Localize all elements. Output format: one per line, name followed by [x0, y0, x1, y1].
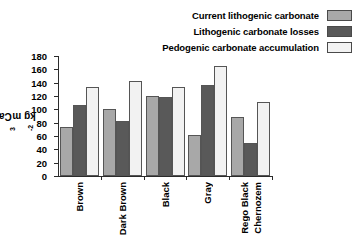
y-axis-tick: 120	[54, 96, 58, 97]
y-axis-tick-label: 20	[36, 157, 47, 168]
x-axis-category-label-line: Dark Brown	[117, 182, 128, 235]
y-axis-tick-label: 140	[31, 77, 47, 88]
y-axis-tick: 180	[54, 56, 58, 57]
bar	[231, 117, 244, 176]
y-axis-tick: 80	[54, 123, 58, 124]
bar-chart-figure: Current lithogenic carbonate Lithogenic …	[0, 0, 356, 252]
bar	[116, 121, 129, 176]
bar	[201, 85, 214, 176]
bar	[86, 87, 99, 176]
legend-item: Pedogenic carbonate accumulation	[138, 40, 352, 55]
chart-legend: Current lithogenic carbonate Lithogenic …	[138, 8, 352, 56]
bar	[214, 66, 227, 176]
legend-swatch-pedogenic-carbonate-accumulation	[327, 42, 352, 53]
x-axis-tick	[229, 176, 230, 180]
bar	[103, 109, 116, 176]
y-axis-tick: 100	[54, 109, 58, 110]
bar	[159, 97, 172, 176]
y-axis-tick-label: 60	[36, 131, 47, 142]
y-axis-title: Ca Co3 kg m-2	[6, 58, 24, 176]
y-axis-tick-label: 100	[31, 104, 47, 115]
bar-group	[231, 56, 270, 176]
y-axis-line	[58, 56, 59, 176]
bar	[257, 102, 270, 176]
legend-label: Pedogenic carbonate accumulation	[162, 42, 319, 53]
legend-label: Current lithogenic carbonate	[192, 10, 319, 21]
y-axis-tick-label: 120	[31, 91, 47, 102]
x-axis-category-label-line: Brown	[74, 182, 85, 212]
y-axis-tick-label: 80	[36, 117, 47, 128]
legend-item: Lithogenic carbonate losses	[138, 24, 352, 39]
x-axis-category-label: Dark Brown	[100, 182, 144, 235]
y-axis-tick: 60	[54, 136, 58, 137]
legend-swatch-current-lithogenic-carbonate	[327, 10, 352, 21]
bar	[244, 143, 257, 176]
bar-group	[103, 56, 142, 176]
bar-group	[188, 56, 227, 176]
x-axis-category-label: Gray	[186, 182, 230, 204]
x-axis-category-label: Black	[143, 182, 187, 207]
x-axis-category-label-line: Black	[160, 182, 171, 207]
legend-item: Current lithogenic carbonate	[138, 8, 352, 23]
y-axis-tick: 140	[54, 83, 58, 84]
bar	[73, 105, 86, 176]
x-axis-category-label-line: Rego Black	[239, 182, 250, 234]
legend-label: Lithogenic carbonate losses	[193, 26, 319, 37]
y-axis-tick: 40	[54, 149, 58, 150]
x-axis-category-label: Brown	[57, 182, 101, 212]
x-axis-category-label-line: Chernozem	[252, 182, 263, 234]
bar	[60, 127, 73, 176]
plot-area: 020406080100120140160180	[58, 56, 272, 176]
y-axis-tick-label: 160	[31, 64, 47, 75]
y-axis-tick: 160	[54, 69, 58, 70]
bar-group	[146, 56, 185, 176]
y-axis-tick-label: 0	[42, 171, 47, 182]
bar	[146, 96, 159, 176]
legend-swatch-lithogenic-carbonate-losses	[327, 26, 352, 37]
x-axis-tick	[272, 176, 273, 180]
x-axis-line	[58, 176, 272, 177]
y-axis-tick-label: 40	[36, 144, 47, 155]
x-axis-tick	[101, 176, 102, 180]
bar	[129, 81, 142, 176]
x-axis-tick	[144, 176, 145, 180]
y-axis-tick-label: 180	[31, 51, 47, 62]
y-axis-tick: 0	[54, 176, 58, 177]
x-axis-category-label-line: Gray	[202, 182, 213, 204]
bar	[188, 135, 201, 176]
x-axis-tick	[186, 176, 187, 180]
x-axis-category-label: Rego BlackChernozem	[229, 182, 273, 234]
bar	[172, 87, 185, 176]
y-axis-title-superscript: -2	[26, 125, 33, 131]
y-axis-title-subscript: 3	[8, 128, 15, 132]
bar-group	[60, 56, 99, 176]
y-axis-tick: 20	[54, 163, 58, 164]
